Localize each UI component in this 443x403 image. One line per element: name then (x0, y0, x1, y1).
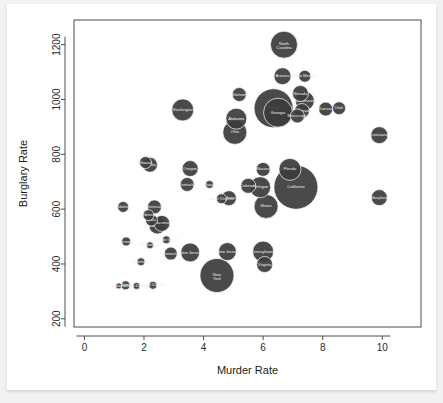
plot-area: 024681020040060080010001200 CaliforniaTe… (7, 4, 436, 390)
data-point: Idaho (118, 201, 129, 212)
data-point: Arizona (274, 68, 291, 85)
x-tick-label: 4 (201, 342, 207, 353)
point-label: Florida (284, 166, 297, 171)
point-label: Minnesota (145, 204, 165, 209)
point-label: Indiana (112, 283, 126, 288)
bubbles-group: CaliforniaTexasNewYorkGeorgiaNorthCaroli… (112, 31, 389, 292)
data-point: New Jersey (217, 243, 239, 261)
point-label: Louisiana (371, 132, 389, 137)
y-tick-label: 1000 (51, 88, 62, 111)
point-label: Missouri (256, 166, 271, 171)
point-label: Kentucky (179, 182, 197, 187)
point-label: New Jersey (217, 249, 239, 254)
point-label: Hawaii (139, 160, 151, 165)
point-label: Kansas (319, 106, 333, 111)
data-point: Florida (279, 158, 301, 180)
point-label: New Jersey (179, 250, 201, 255)
point-label: Delaware (201, 182, 219, 187)
point-label: Ohio (231, 129, 240, 134)
data-point: NorthCarolina (270, 31, 297, 58)
data-point: Utah (333, 102, 346, 115)
data-point: Missouri (256, 162, 271, 176)
x-tick-label: 2 (141, 342, 147, 353)
point-label: Virginia (258, 262, 272, 267)
x-tick-label: 8 (320, 342, 326, 353)
data-point: Kentucky (179, 177, 197, 191)
point-label: Utah (335, 105, 344, 110)
point-label: Illinois (260, 203, 271, 208)
data-point: Maryland (371, 190, 389, 206)
x-tick-label: 10 (377, 342, 389, 353)
point-label: Idaho (118, 204, 129, 209)
data-point: Illinois (254, 194, 278, 218)
chart-card: 024681020040060080010001200 CaliforniaTe… (7, 4, 436, 390)
point-label: North Dakota (124, 283, 149, 288)
point-label: NewYork (213, 272, 222, 281)
point-label: Maryland (371, 195, 389, 200)
point-label: Mississippi (287, 113, 307, 118)
data-point: Alabama (226, 108, 247, 129)
x-tick-label: 0 (82, 342, 88, 353)
point-label: Nebraska (140, 212, 158, 217)
data-point: Oklahoma (230, 88, 249, 102)
screenshot-root: 024681020040060080010001200 CaliforniaTe… (0, 0, 443, 403)
point-label: Vermont (118, 239, 134, 244)
data-point: Montana (133, 258, 150, 266)
point-label: Washington (172, 107, 194, 112)
point-label: Oregon (183, 166, 197, 171)
point-label: New Mexico (294, 73, 317, 78)
point-label: Arizona (276, 73, 291, 78)
data-point: New Jersey (179, 243, 201, 262)
point-label: Colorado (240, 183, 257, 188)
x-tick-label: 6 (260, 342, 266, 353)
data-point: Vermont (118, 237, 134, 246)
data-point: NewYork (200, 258, 234, 292)
point-label: Nevada (293, 91, 308, 96)
data-point: Virginia (257, 257, 273, 273)
bubble-chart-svg: 024681020040060080010001200 CaliforniaTe… (7, 4, 436, 390)
point-label: Montana (133, 259, 150, 264)
data-point: New Mexico (294, 70, 317, 82)
data-point: Oregon (182, 161, 198, 177)
x-axis-title: Murder Rate (217, 364, 278, 376)
data-point: Delaware (201, 180, 219, 188)
data-point: Nevada (292, 85, 308, 101)
point-label: Alabama (228, 116, 245, 121)
y-tick-label: 800 (51, 146, 62, 163)
point-label: Rhode Island (154, 237, 179, 242)
point-label: Connecticut (160, 251, 182, 256)
data-point: Wyoming (141, 242, 159, 249)
y-tick-label: 200 (51, 310, 62, 327)
y-tick-label: 600 (51, 200, 62, 217)
point-label: Pennsylvania (251, 249, 276, 254)
y-tick-label: 400 (51, 255, 62, 272)
data-point: Kansas (319, 102, 333, 116)
axes-group: 024681020040060080010001200 (51, 20, 421, 353)
point-label: Wyoming (141, 242, 159, 247)
point-label: West Virginia (209, 196, 234, 201)
y-tick-label: 1200 (51, 33, 62, 56)
data-point: Hawaii (139, 157, 151, 169)
data-point: Washington (172, 99, 194, 121)
y-axis-title: Burglary Rate (17, 140, 29, 207)
point-label: California (287, 184, 305, 189)
point-label: Oklahoma (230, 92, 249, 97)
point-label: Georgia (271, 110, 286, 115)
data-point: Louisiana (371, 127, 389, 144)
